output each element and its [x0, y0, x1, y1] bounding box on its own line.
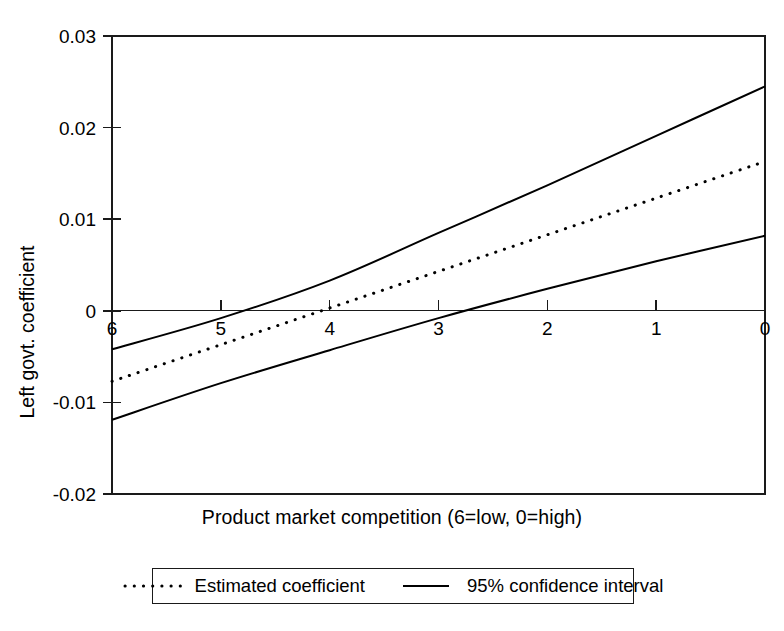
data-series-group [112, 86, 765, 419]
y-tick-label: 0.03 [59, 26, 96, 47]
x-tick-labels: 6543210 [107, 318, 771, 339]
legend-item-estimated-coefficient: Estimated coefficient [123, 577, 365, 596]
x-tick-label: 2 [542, 318, 553, 339]
plot-frame [112, 36, 765, 494]
y-tick-label: -0.02 [53, 484, 96, 505]
legend-item-confidence-interval: 95% confidence interval [395, 577, 663, 596]
x-tick-label: 1 [651, 318, 662, 339]
y-axis-title: Left govt. coefficient [16, 245, 38, 419]
legend-solid-line-icon [395, 579, 457, 593]
y-tick-label: 0.01 [59, 209, 96, 230]
x-tick-label: 4 [324, 318, 335, 339]
y-tick-labels: 0.030.020.010-0.01-0.02 [53, 26, 96, 505]
chart-figure: 6543210 0.030.020.010-0.01-0.02 Left gov… [0, 0, 784, 631]
x-tick-label: 3 [433, 318, 444, 339]
x-axis-title: Product market competition (6=low, 0=hig… [0, 506, 784, 529]
x-tick-label: 5 [216, 318, 227, 339]
legend-label-confidence-interval: 95% confidence interval [467, 577, 663, 596]
x-tick-label: 6 [107, 318, 118, 339]
chart-legend: Estimated coefficient 95% confidence int… [152, 568, 634, 604]
x-tick-label: 0 [760, 318, 771, 339]
y-tick-label: -0.01 [53, 392, 96, 413]
legend-label-estimated-coefficient: Estimated coefficient [195, 577, 365, 596]
legend-dotted-line-icon [123, 579, 185, 593]
chart-plot-area: 6543210 0.030.020.010-0.01-0.02 Left gov… [0, 0, 784, 631]
x-axis-ticks [112, 300, 765, 311]
y-tick-label: 0.02 [59, 118, 96, 139]
axis-frame-path [112, 36, 765, 494]
y-tick-label: 0 [85, 301, 96, 322]
series-line [112, 161, 765, 381]
y-axis-title-text: Left govt. coefficient [16, 245, 38, 419]
